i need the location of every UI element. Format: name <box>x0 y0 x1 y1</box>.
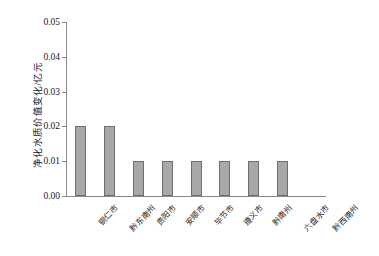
x-tick-label: 贵阳市 <box>153 202 178 227</box>
bar <box>219 161 230 196</box>
bar <box>133 161 144 196</box>
y-tick-mark <box>62 196 66 197</box>
y-axis-title: 净化水质价值变化/亿元 <box>30 30 44 200</box>
y-tick-label: 0.02 <box>43 121 60 131</box>
bar <box>277 161 288 196</box>
x-tick-label: 六盘水市 <box>300 202 331 233</box>
bar <box>162 161 173 196</box>
bar <box>248 161 259 196</box>
y-tick-label: 0.04 <box>43 52 60 62</box>
y-tick-mark <box>62 161 66 162</box>
x-tick-label: 黔西南州 <box>329 202 360 233</box>
y-tick-mark <box>62 57 66 58</box>
bar <box>104 126 115 196</box>
y-tick-label: 0.00 <box>43 191 60 201</box>
plot-area: 0.000.010.020.030.040.05 铜仁市黔东南州贵阳市安顺市毕节… <box>66 22 326 196</box>
y-tick-label: 0.05 <box>43 17 60 27</box>
chart-figure: 净化水质价值变化/亿元 0.000.010.020.030.040.05 铜仁市… <box>0 0 379 256</box>
y-axis-line <box>66 22 67 196</box>
y-tick-mark <box>62 126 66 127</box>
x-tick-label: 安顺市 <box>182 202 207 227</box>
bar <box>191 161 202 196</box>
x-tick-label: 遵义市 <box>240 202 265 227</box>
y-tick-label: 0.01 <box>43 156 60 166</box>
bar <box>75 126 86 196</box>
x-axis-line <box>66 196 326 197</box>
y-tick-label: 0.03 <box>43 87 60 97</box>
x-tick-label: 铜仁市 <box>96 202 121 227</box>
y-tick-mark <box>62 22 66 23</box>
x-tick-label: 毕节市 <box>211 202 236 227</box>
y-tick-mark <box>62 92 66 93</box>
x-tick-label: 黔南州 <box>269 202 294 227</box>
